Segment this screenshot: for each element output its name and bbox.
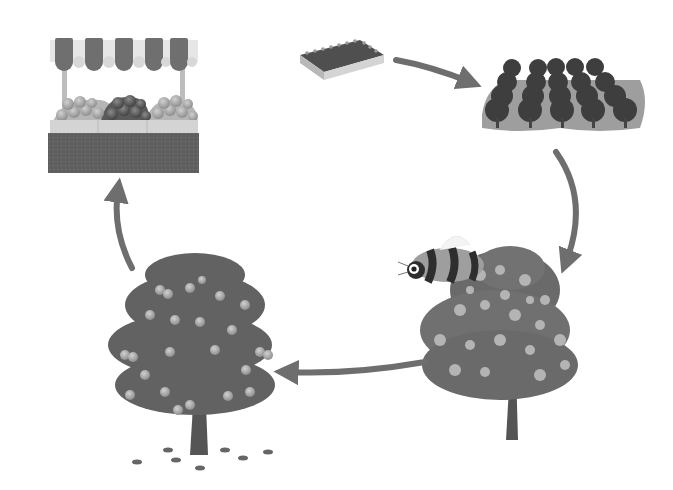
bee-icon: [398, 236, 484, 282]
stall-counter: [48, 133, 199, 173]
arrow-orchard-to-pollination: [556, 152, 576, 262]
arrow-pollination-to-fruiting: [286, 362, 425, 373]
market-stall: [48, 38, 199, 173]
flowering-tree: [398, 236, 578, 440]
seedling-tray: [300, 39, 384, 80]
fruit-tree-cycle-diagram: Fruit tree life cycle: [0, 0, 673, 490]
fruiting-tree: [108, 253, 275, 471]
arrow-nursery-to-orchard: [396, 60, 470, 82]
arrow-fruiting-to-market: [117, 190, 132, 268]
orchard: [482, 58, 645, 131]
awning: [50, 38, 198, 71]
